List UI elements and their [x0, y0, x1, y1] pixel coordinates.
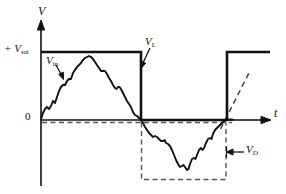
origin-label: 0: [25, 111, 31, 122]
vin-label-text: V: [46, 54, 53, 66]
vd-label: VD: [246, 144, 258, 155]
positive-saturation-subscript: sat: [21, 48, 29, 56]
vin-noisy-waveform: [41, 56, 233, 170]
positive-saturation-text: + V: [4, 42, 21, 54]
vl-label-subscript: L: [152, 41, 156, 49]
vd-dashed-construction: [42, 123, 232, 180]
vd-dashed-rect: [142, 123, 227, 180]
y-axis-arrowhead: [37, 20, 44, 30]
x-axis-arrowhead: [261, 116, 271, 123]
annotation-arrows: [56, 48, 244, 158]
y-axis-label: V: [38, 5, 45, 17]
x-axis-label: t: [274, 107, 277, 119]
vin-leader-arrowhead: [59, 72, 64, 79]
vl-label-text: V: [145, 35, 152, 47]
vin-label: Vin: [46, 55, 58, 66]
waveform-svg: [0, 0, 286, 194]
vd-label-subscript: D: [253, 149, 258, 157]
vl-leader-line: [143, 48, 151, 64]
vd-label-text: V: [246, 143, 253, 155]
vl-square-wave: [41, 52, 270, 120]
vin-label-subscript: in: [53, 60, 58, 68]
vd-leader-arrowhead: [227, 149, 234, 155]
positive-saturation-label: + Vsat: [4, 43, 29, 54]
waveform-figure: V t + Vsat 0 Vin VL VD: [0, 0, 286, 194]
vl-leader-arrowhead: [140, 61, 145, 68]
vl-label: VL: [145, 36, 156, 47]
